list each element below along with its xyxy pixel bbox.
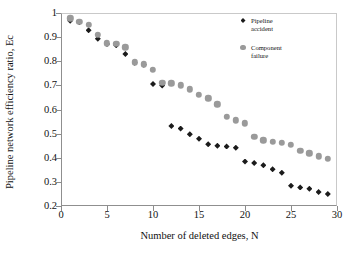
y-tick-mark xyxy=(56,134,61,135)
legend-diamond-marker-icon xyxy=(235,17,251,23)
chart-figure: Pipeline network efficiency ratio, Ec 0.… xyxy=(0,0,351,257)
x-tick-mark xyxy=(337,206,338,211)
y-tick-mark xyxy=(56,158,61,159)
x-tick-mark xyxy=(61,206,62,211)
y-tick-mark xyxy=(56,182,61,183)
x-tick-mark xyxy=(291,206,292,211)
x-axis-title: Number of deleted edges, N xyxy=(61,230,338,241)
legend-item-component-failure: Component failure xyxy=(235,44,331,61)
y-axis-title: Pipeline network efficiency ratio, Ec xyxy=(2,2,18,222)
y-tick-label: 0.6 xyxy=(29,105,57,115)
legend-label: Pipeline accident xyxy=(251,17,273,34)
y-tick-mark xyxy=(56,37,61,38)
y-tick-mark xyxy=(56,61,61,62)
chart-legend: Pipeline accident Component failure xyxy=(235,17,331,71)
x-tick-mark xyxy=(245,206,246,211)
y-tick-label: 1 xyxy=(29,8,57,18)
y-tick-mark xyxy=(56,85,61,86)
legend-item-pipeline-accident: Pipeline accident xyxy=(235,17,331,34)
x-tick-mark xyxy=(153,206,154,211)
x-tick-mark xyxy=(199,206,200,211)
y-tick-mark xyxy=(56,110,61,111)
x-tick-mark xyxy=(107,206,108,211)
y-tick-mark xyxy=(56,13,61,14)
y-tick-label: 0.5 xyxy=(29,129,57,139)
y-tick-label: 0.3 xyxy=(29,177,57,187)
legend-circle-marker-icon xyxy=(235,44,251,50)
y-tick-label: 0.9 xyxy=(29,32,57,42)
y-tick-label: 0.8 xyxy=(29,56,57,66)
y-tick-label: 0.4 xyxy=(29,153,57,163)
y-tick-label: 0.7 xyxy=(29,80,57,90)
legend-label: Component failure xyxy=(251,44,282,61)
